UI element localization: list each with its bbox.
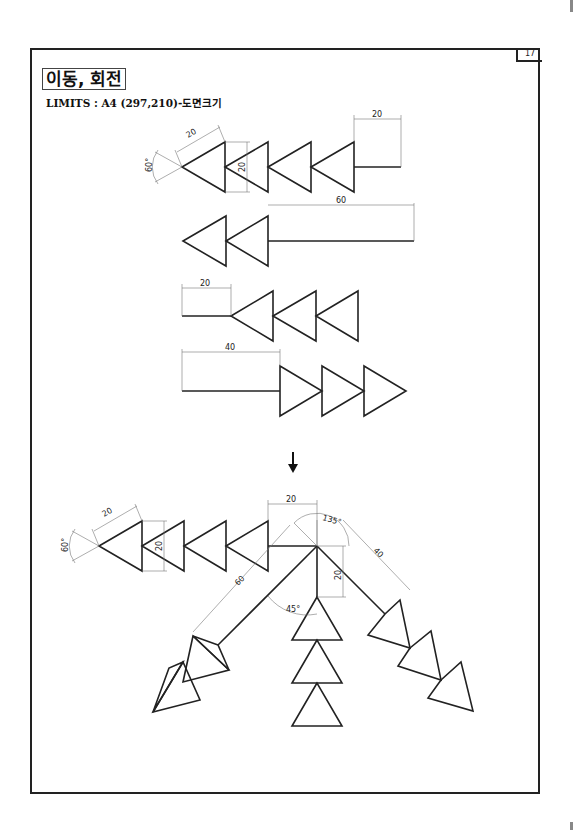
- dim-branch-right: 40: [372, 546, 386, 560]
- dim-angle: 60°: [145, 158, 154, 172]
- result-figure: 20 60° 20 20: [61, 495, 473, 726]
- figure-4: 40: [182, 343, 406, 416]
- dim-side: 20: [101, 506, 114, 519]
- figure-1: 20 20 20 60°: [145, 110, 401, 192]
- dim-angle-45: 45°: [286, 605, 300, 614]
- dim-height: 20: [238, 162, 247, 172]
- dim-tail: 40: [225, 343, 235, 352]
- figure-2: 60: [183, 196, 414, 266]
- figure-3: 20: [182, 279, 358, 341]
- dim-tail: 60: [336, 196, 346, 205]
- dim-tail: 20: [200, 279, 210, 288]
- dim-tail: 20: [372, 110, 382, 119]
- down-arrow-icon: [288, 452, 298, 473]
- dim-side: 20: [185, 127, 198, 140]
- dim-rot-angle: 135°: [321, 513, 342, 527]
- dim-tail: 20: [286, 495, 296, 504]
- dim-angle: 60°: [61, 538, 70, 552]
- cad-drawing: 20 20 20 60° 60: [0, 0, 576, 831]
- dim-height: 20: [155, 541, 164, 551]
- dim-branch-down: 20: [334, 570, 343, 580]
- drawing-sheet: 17 이동, 회전 LIMITS : A4 (297,210)-도면크기 20 …: [0, 0, 576, 831]
